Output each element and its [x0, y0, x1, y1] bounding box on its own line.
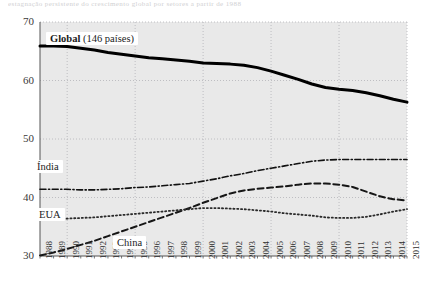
series-label-china-name: China [117, 237, 142, 248]
y-axis-tick-label: 50 [12, 132, 34, 144]
x-axis-tick-label: 2015 [411, 241, 421, 259]
x-axis-tick-label: 2003 [247, 241, 257, 259]
x-axis-tick-label: 1996 [152, 241, 162, 259]
y-axis-tick-label: 30 [12, 249, 34, 261]
y-axis-tick-label: 60 [12, 74, 34, 86]
x-axis-tick-label: 2010 [343, 241, 353, 259]
x-axis-tick-label: 2001 [220, 241, 230, 259]
x-axis-tick-label: 2004 [261, 241, 271, 259]
x-axis-tick-label: 1988 [44, 241, 54, 259]
x-axis-tick-label: 1989 [57, 241, 67, 259]
x-axis-tick-label: 1999 [193, 241, 203, 259]
x-axis-tick-label: 1992 [98, 241, 108, 259]
series-label-global-name: Global [50, 33, 80, 44]
x-axis-tick-label: 1990 [71, 241, 81, 259]
x-axis-tick-label: 1998 [179, 241, 189, 259]
series-label-eua-name: EUA [39, 209, 61, 220]
x-axis-tick-label: 2002 [234, 241, 244, 259]
x-axis-tick-label: 2014 [397, 241, 407, 259]
x-axis-tick-label: 2005 [275, 241, 285, 259]
x-axis-tick-label: 2012 [370, 241, 380, 259]
y-axis-tick-label: 40 [12, 191, 34, 203]
series-label-global: Global (146 países) [46, 32, 138, 45]
series-label-india: Índia [33, 160, 63, 173]
x-axis-tick-label: 2011 [356, 241, 366, 259]
series-label-global-note: (146 países) [80, 33, 134, 44]
x-axis-tick-label: 2008 [315, 241, 325, 259]
series-label-india-name: Índia [37, 161, 59, 172]
x-axis-tick-label: 2013 [383, 241, 393, 259]
series-label-china: China [113, 236, 146, 249]
x-axis-tick-label: 2006 [288, 241, 298, 259]
x-axis-tick-label: 2009 [329, 241, 339, 259]
x-axis-tick-label: 2000 [207, 241, 217, 259]
x-axis-tick-label: 1991 [84, 241, 94, 259]
x-axis-tick-label: 2007 [302, 241, 312, 259]
chart-figure: estagnação persistente do crescimento gl… [0, 0, 425, 293]
series-label-eua: EUA [35, 208, 65, 221]
x-axis-tick-label: 1997 [166, 241, 176, 259]
y-axis-tick-label: 70 [12, 15, 34, 27]
